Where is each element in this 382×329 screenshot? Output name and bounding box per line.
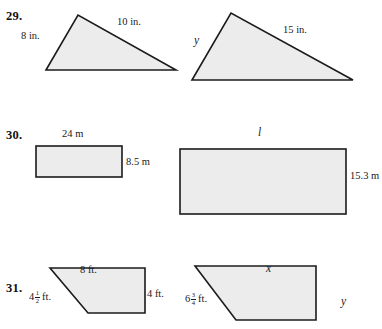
fraction-three-quarters: 3 4 bbox=[191, 292, 195, 307]
mixed-unit-label: ft. bbox=[42, 292, 51, 303]
mixed-unit-label: ft. bbox=[198, 294, 207, 305]
label-small-triangle-hypotenuse: 10 in. bbox=[117, 17, 141, 28]
small-triangle-29 bbox=[46, 15, 176, 70]
label-large-trapezoid-slant-side: 6 3 4 ft. bbox=[185, 292, 207, 307]
mixed-number-six-and-three-quarters: 6 3 4 ft. bbox=[185, 292, 207, 307]
label-large-rectangle-height: 15.3 m bbox=[350, 171, 379, 182]
exercise-page: 29. 8 in. 10 in. y 15 in. 30. 24 m 8.5 m… bbox=[0, 0, 382, 329]
label-small-trapezoid-right-side: 4 ft. bbox=[147, 289, 164, 300]
label-small-trapezoid-top: 8 ft. bbox=[80, 265, 97, 276]
large-rectangle-30 bbox=[180, 149, 346, 214]
label-small-triangle-left-side: 8 in. bbox=[21, 31, 40, 42]
label-large-triangle-left-side-unknown: y bbox=[194, 35, 199, 47]
label-large-rectangle-width-unknown: l bbox=[258, 127, 261, 139]
small-trapezoid-31 bbox=[50, 268, 145, 313]
problem-30: 30. 24 m 8.5 m l 15.3 m bbox=[0, 110, 382, 220]
mixed-whole-part: 6 bbox=[185, 294, 190, 305]
problem-31: 31. 8 ft. 4 1 2 ft. 4 ft. x 6 3 bbox=[0, 220, 382, 329]
large-triangle-29 bbox=[192, 13, 353, 80]
label-large-triangle-hypotenuse: 15 in. bbox=[283, 25, 307, 36]
fraction-one-half: 1 2 bbox=[35, 290, 39, 305]
mixed-whole-part: 4 bbox=[29, 292, 34, 303]
mixed-number-four-and-one-half: 4 1 2 ft. bbox=[29, 290, 51, 305]
label-large-trapezoid-right-side-unknown: y bbox=[341, 296, 346, 308]
problem-29: 29. 8 in. 10 in. y 15 in. bbox=[0, 0, 382, 110]
problem-30-figures bbox=[0, 110, 382, 220]
small-rectangle-30 bbox=[36, 146, 122, 177]
fraction-denominator: 4 bbox=[191, 300, 195, 307]
large-trapezoid-31 bbox=[195, 266, 316, 320]
problem-29-figures bbox=[0, 0, 382, 110]
label-large-trapezoid-top-unknown: x bbox=[266, 263, 271, 275]
fraction-denominator: 2 bbox=[35, 298, 39, 305]
problem-31-figures bbox=[0, 220, 382, 329]
label-small-trapezoid-slant-side: 4 1 2 ft. bbox=[29, 290, 51, 305]
label-small-rectangle-width: 24 m bbox=[62, 129, 83, 140]
label-small-rectangle-height: 8.5 m bbox=[126, 157, 150, 168]
